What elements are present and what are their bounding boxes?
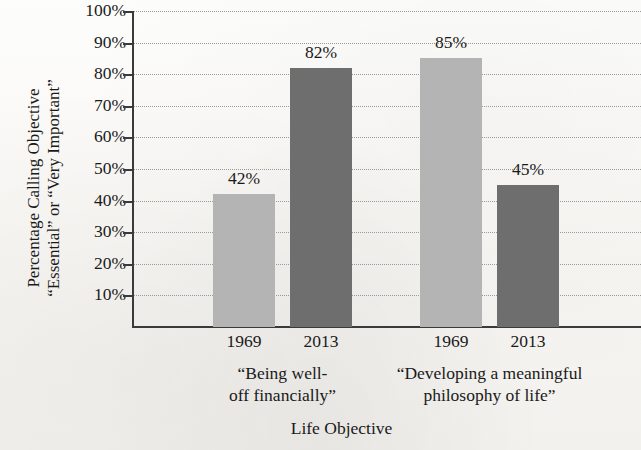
group-label-line-2: philosophy of life”	[350, 385, 630, 407]
gridline	[132, 295, 641, 296]
y-axis-tick-label: 40%	[60, 192, 126, 210]
y-axis-tick-label: 30%	[60, 223, 126, 241]
gridline	[132, 74, 641, 75]
y-axis-tick-label: 20%	[60, 255, 126, 273]
bar[interactable]	[497, 185, 559, 327]
gridline	[132, 201, 641, 202]
gridline	[132, 43, 641, 44]
y-axis-tick	[123, 137, 132, 139]
bar-value-label: 82%	[276, 44, 366, 62]
y-axis-tick-label: 80%	[60, 65, 126, 83]
bar[interactable]	[420, 58, 482, 327]
x-axis-line	[132, 326, 641, 328]
y-axis-tick-label: 60%	[60, 128, 126, 146]
y-axis-line	[132, 11, 134, 327]
bar-value-label: 45%	[483, 161, 573, 179]
bar-value-label: 42%	[199, 170, 289, 188]
y-axis-tick-label: 70%	[60, 97, 126, 115]
bar[interactable]	[290, 68, 352, 327]
y-axis-tick-label: 50%	[60, 160, 126, 178]
y-axis-tick	[123, 201, 132, 203]
y-axis-tick-label: 100%	[60, 2, 126, 20]
x-axis-title: Life Objective	[0, 418, 641, 439]
bar-chart-figure: Percentage Calling Objective “Essential”…	[0, 0, 641, 450]
y-axis-tick-labels: 100%90%80%70%60%50%40%30%20%10%	[60, 0, 126, 340]
plot-area: 42%82%85%45%	[132, 11, 641, 327]
y-axis-title-line-1: Percentage Calling Objective	[24, 28, 44, 348]
gridline	[132, 137, 641, 138]
y-axis-tick-label: 90%	[60, 34, 126, 52]
bar-value-label: 85%	[406, 34, 496, 52]
y-axis-tick	[123, 295, 132, 297]
x-axis-group-label: “Developing a meaningfulphilosophy of li…	[350, 363, 630, 407]
y-axis-tick	[123, 74, 132, 76]
y-axis-tick	[123, 11, 132, 13]
gridline	[132, 264, 641, 265]
x-axis-tick-label: 2013	[276, 333, 366, 351]
y-axis-tick	[123, 232, 132, 234]
y-axis-tick	[123, 264, 132, 266]
y-axis-tick-label: 10%	[60, 286, 126, 304]
gridline	[132, 232, 641, 233]
y-axis-tick	[123, 169, 132, 171]
gridline	[132, 106, 641, 107]
gridline	[132, 11, 641, 12]
y-axis-tick	[123, 106, 132, 108]
x-axis-tick-label: 2013	[483, 333, 573, 351]
group-label-line-1: “Developing a meaningful	[350, 363, 630, 385]
y-axis-tick	[123, 43, 132, 45]
bar[interactable]	[213, 194, 275, 327]
